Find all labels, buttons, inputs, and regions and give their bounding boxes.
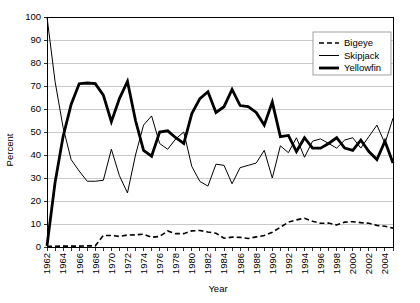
x-tick-label: 1984 xyxy=(218,253,229,274)
x-tick-label: 1988 xyxy=(251,253,262,274)
x-tick-label: 1980 xyxy=(186,253,197,274)
x-tick-label: 1976 xyxy=(154,253,165,274)
x-tick-label: 1998 xyxy=(331,253,342,274)
x-axis-ticks xyxy=(47,247,393,251)
x-tick-label: 1978 xyxy=(170,253,181,274)
series-line-yellowfin xyxy=(47,81,393,245)
x-tick-label: 1986 xyxy=(235,253,246,274)
line-chart: 0102030405060708090100 19621964196619681… xyxy=(0,0,420,303)
y-tick-label: 30 xyxy=(30,172,41,183)
x-tick-label: 2000 xyxy=(347,253,358,274)
x-tick-label: 1974 xyxy=(138,253,149,274)
y-tick-label: 0 xyxy=(36,241,41,252)
x-tick-label: 2004 xyxy=(379,253,390,274)
y-tick-label: 40 xyxy=(30,149,41,160)
x-tick-label: 1968 xyxy=(90,253,101,274)
x-axis-tick-labels: 1962196419661968197019721974197619781980… xyxy=(41,253,390,274)
x-tick-label: 1994 xyxy=(299,253,310,274)
series-line-bigeye xyxy=(47,218,393,246)
x-tick-label: 1982 xyxy=(202,253,213,274)
y-tick-label: 20 xyxy=(30,195,41,206)
x-tick-label: 1972 xyxy=(122,253,133,274)
x-tick-label: 1992 xyxy=(283,253,294,274)
x-tick-label: 1970 xyxy=(106,253,117,274)
x-tick-label: 1964 xyxy=(57,253,68,274)
x-tick-label: 1962 xyxy=(41,253,52,274)
y-tick-label: 10 xyxy=(30,218,41,229)
chart-container: 0102030405060708090100 19621964196619681… xyxy=(0,0,420,303)
x-tick-label: 2002 xyxy=(363,253,374,274)
x-tick-label: 1996 xyxy=(315,253,326,274)
y-axis-title: Percent xyxy=(4,133,15,166)
x-tick-label: 1990 xyxy=(267,253,278,274)
legend[interactable]: BigeyeSkipjackYellowfin xyxy=(313,32,391,75)
y-tick-label: 70 xyxy=(30,80,41,91)
x-axis-title: Year xyxy=(208,283,227,294)
y-axis-tick-labels: 0102030405060708090100 xyxy=(25,11,41,252)
y-tick-label: 90 xyxy=(30,34,41,45)
legend-label-skipjack[interactable]: Skipjack xyxy=(344,50,380,61)
legend-label-bigeye[interactable]: Bigeye xyxy=(344,37,373,48)
x-tick-label: 1966 xyxy=(74,253,85,274)
y-axis-ticks xyxy=(44,17,48,247)
y-tick-label: 50 xyxy=(30,126,41,137)
y-tick-label: 60 xyxy=(30,103,41,114)
y-tick-label: 100 xyxy=(25,11,41,22)
legend-label-yellowfin[interactable]: Yellowfin xyxy=(344,62,381,73)
y-tick-label: 80 xyxy=(30,57,41,68)
